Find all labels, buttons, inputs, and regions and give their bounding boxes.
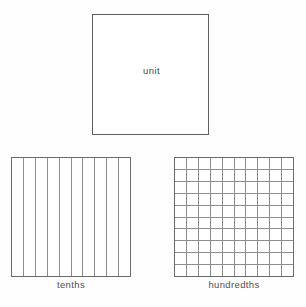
hundredths-cell [246,229,258,240]
hundredths-cell [211,158,223,169]
hundredths-cell [187,241,199,252]
hundredths-cell [199,218,211,229]
hundredths-cell [199,194,211,205]
hundredths-cell [175,194,187,205]
hundredths-cell [199,182,211,193]
tenths-column [24,158,36,276]
hundredths-cell [211,265,223,276]
hundredths-cell [258,229,270,240]
tenths-column [72,158,84,276]
hundredths-cell [282,265,293,276]
hundredths-cell [223,253,235,264]
hundredths-cell [187,158,199,169]
hundredths-cell [199,253,211,264]
hundredths-cell [235,253,247,264]
hundredths-cell [282,170,293,181]
hundredths-cell [211,170,223,181]
tenths-column [36,158,48,276]
tenths-block-label: tenths [11,279,131,290]
hundredths-cell [211,206,223,217]
unit-block-label: unit [93,65,210,76]
hundredths-cell [187,170,199,181]
hundredths-cell [223,265,235,276]
hundredths-cell [270,206,282,217]
hundredths-cell [175,253,187,264]
hundredths-cell [223,158,235,169]
hundredths-cell [235,265,247,276]
hundredths-cell [258,253,270,264]
hundredths-cell [270,253,282,264]
hundredths-cell [199,265,211,276]
hundredths-row [175,206,293,218]
unit-block: unit [92,14,209,135]
hundredths-block [174,157,294,277]
tenths-column [48,158,60,276]
hundredths-block-label: hundredths [174,279,294,290]
hundredths-cell [270,218,282,229]
hundredths-cell [258,194,270,205]
hundredths-row [175,265,293,276]
hundredths-cell [175,218,187,229]
hundredths-grid [175,158,293,276]
hundredths-cell [246,265,258,276]
hundredths-cell [246,170,258,181]
hundredths-cell [246,206,258,217]
hundredths-cell [211,241,223,252]
hundredths-cell [246,218,258,229]
tenths-column [119,158,130,276]
hundredths-row [175,229,293,241]
hundredths-cell [258,206,270,217]
hundredths-cell [187,229,199,240]
hundredths-cell [235,241,247,252]
hundredths-cell [223,229,235,240]
hundredths-cell [211,182,223,193]
hundredths-cell [282,241,293,252]
hundredths-row [175,241,293,253]
hundredths-cell [235,158,247,169]
hundredths-cell [175,206,187,217]
hundredths-cell [175,265,187,276]
hundredths-cell [223,194,235,205]
hundredths-cell [235,194,247,205]
hundredths-cell [175,241,187,252]
hundredths-cell [282,253,293,264]
hundredths-cell [187,218,199,229]
hundredths-row [175,218,293,230]
hundredths-cell [258,218,270,229]
hundredths-cell [258,182,270,193]
hundredths-cell [211,194,223,205]
hundredths-cell [223,170,235,181]
hundredths-cell [187,182,199,193]
hundredths-cell [187,194,199,205]
hundredths-cell [246,158,258,169]
hundredths-cell [258,241,270,252]
diagram-canvas: unit tenths [0,0,306,307]
hundredths-cell [199,206,211,217]
hundredths-cell [282,158,293,169]
hundredths-cell [235,206,247,217]
hundredths-cell [211,229,223,240]
hundredths-cell [246,194,258,205]
hundredths-row [175,170,293,182]
hundredths-cell [175,170,187,181]
hundredths-cell [223,241,235,252]
hundredths-cell [282,182,293,193]
tenths-column [107,158,119,276]
tenths-column [60,158,72,276]
hundredths-cell [270,194,282,205]
hundredths-row [175,158,293,170]
hundredths-cell [211,218,223,229]
hundredths-cell [199,229,211,240]
hundredths-cell [270,170,282,181]
hundredths-cell [282,218,293,229]
tenths-column [83,158,95,276]
tenths-column [12,158,24,276]
tenths-column [95,158,107,276]
hundredths-cell [270,265,282,276]
hundredths-cell [270,182,282,193]
hundredths-cell [211,253,223,264]
hundredths-row [175,253,293,265]
hundredths-cell [282,229,293,240]
hundredths-cell [235,182,247,193]
hundredths-cell [199,158,211,169]
